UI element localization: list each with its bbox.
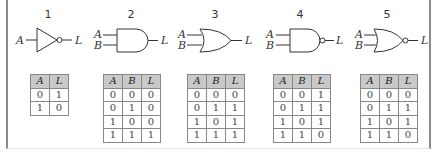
header-cell: L (312, 75, 331, 89)
table-cell: 1 (312, 88, 331, 102)
table-cell: 1 (104, 129, 123, 143)
header-cell: A (31, 75, 50, 89)
gate-1-input-a-label: A (15, 34, 24, 47)
table-cell: 0 (142, 102, 161, 116)
header-cell: B (380, 75, 399, 89)
table-cell: 1 (123, 102, 142, 116)
table-cell: 1 (50, 88, 69, 102)
table-cell: 1 (226, 115, 245, 129)
table-cell: 0 (226, 88, 245, 102)
header-cell: L (399, 75, 418, 89)
header-cell: B (293, 75, 312, 89)
truth-table-1: A L 0 1 1 0 (30, 74, 69, 116)
table-row: 101 (361, 115, 418, 129)
table-row: 101 (188, 115, 245, 129)
table-row: 011 (274, 102, 331, 116)
table-cell: 0 (31, 88, 50, 102)
table-cell: 1 (361, 129, 380, 143)
table-row: 011 (361, 102, 418, 116)
table-row: 000 (188, 88, 245, 102)
header-cell: B (123, 75, 142, 89)
table-cell: 1 (274, 115, 293, 129)
not-gate-icon (26, 28, 72, 52)
table-row: 111 (104, 129, 161, 143)
gate-5-output-label: L (420, 34, 428, 47)
table-cell: 1 (123, 129, 142, 143)
table-cell: 1 (312, 115, 331, 129)
table-cell: 1 (31, 102, 50, 116)
and-gate-icon (103, 29, 158, 52)
header-cell: A (361, 75, 380, 89)
table-row: 1 0 (31, 102, 69, 116)
table-cell: 0 (207, 115, 226, 129)
table-row: 111 (188, 129, 245, 143)
table-cell: 0 (274, 102, 293, 116)
table-cell: 0 (207, 88, 226, 102)
table-cell: 1 (380, 102, 399, 116)
gate-2-input-b-label: B (93, 39, 102, 52)
truth-table-5: ABL000011101110 (360, 74, 418, 143)
table-row: 0 1 (31, 88, 69, 102)
table-cell: 1 (188, 129, 207, 143)
table-cell: 0 (142, 88, 161, 102)
table-row: 010 (104, 102, 161, 116)
table-cell: 1 (104, 115, 123, 129)
table-cell: 0 (293, 88, 312, 102)
table-row: 110 (361, 129, 418, 143)
header-cell: B (207, 75, 226, 89)
header-cell: L (226, 75, 245, 89)
table-cell: 0 (123, 115, 142, 129)
table-cell: 0 (380, 88, 399, 102)
header-cell: A (188, 75, 207, 89)
table-cell: 1 (361, 115, 380, 129)
table-cell: 1 (293, 129, 312, 143)
table-cell: 1 (226, 129, 245, 143)
truth-table-2: ABL000010100111 (103, 74, 161, 143)
table-row: 001 (274, 88, 331, 102)
table-cell: 1 (399, 102, 418, 116)
table-cell: 0 (104, 88, 123, 102)
table-cell: 1 (142, 129, 161, 143)
table-cell: 1 (312, 102, 331, 116)
gate-3-output-label: L (244, 34, 252, 47)
table-cell: 0 (399, 88, 418, 102)
xor-gate-icon (364, 29, 418, 52)
table-cell: 0 (293, 115, 312, 129)
gate-3-input-b-label: B (177, 39, 186, 52)
table-cell: 1 (399, 115, 418, 129)
truth-table-4: ABL001011101110 (273, 74, 331, 143)
table-cell: 0 (188, 102, 207, 116)
header-cell: L (142, 75, 161, 89)
gate-symbols: A L A B L A B L A B L A B L (0, 0, 436, 70)
table-cell: 1 (226, 102, 245, 116)
table-row: 100 (104, 115, 161, 129)
table-row: 110 (274, 129, 331, 143)
gate-2-output-label: L (160, 34, 168, 47)
table-cell: 0 (188, 88, 207, 102)
table-cell: 0 (123, 88, 142, 102)
table-row: 101 (274, 115, 331, 129)
table-cell: 0 (380, 115, 399, 129)
table-cell: 1 (207, 102, 226, 116)
table-cell: 0 (361, 88, 380, 102)
truth-table-3: ABL000011101111 (187, 74, 245, 143)
gate-1-output-label: L (74, 34, 82, 47)
header-cell: L (50, 75, 69, 89)
gate-5-input-b-label: B (354, 39, 363, 52)
table-cell: 1 (293, 102, 312, 116)
or-gate-icon (187, 29, 242, 52)
table-cell: 0 (361, 102, 380, 116)
table-cell: 1 (207, 129, 226, 143)
table-cell: 1 (380, 129, 399, 143)
header-cell: A (274, 75, 293, 89)
table-row: 000 (104, 88, 161, 102)
table-cell: 0 (399, 129, 418, 143)
gate-4-input-b-label: B (265, 39, 274, 52)
nand-gate-icon (276, 29, 334, 52)
header-cell: A (104, 75, 123, 89)
gate-4-output-label: L (335, 34, 343, 47)
table-cell: 0 (274, 88, 293, 102)
table-cell: 0 (104, 102, 123, 116)
table-row: 011 (188, 102, 245, 116)
table-cell: 0 (50, 102, 69, 116)
